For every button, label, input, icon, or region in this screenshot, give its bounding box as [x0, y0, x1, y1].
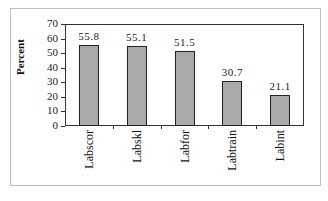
- y-tick-mark: [61, 53, 65, 54]
- y-tick-label: 50: [38, 47, 58, 58]
- x-tick-mark: [113, 126, 114, 129]
- y-tick-mark: [61, 82, 65, 83]
- y-tick-label: 20: [38, 91, 58, 102]
- value-label: 30.7: [212, 66, 252, 78]
- x-tick-label: Labtrain: [225, 130, 240, 200]
- y-axis-label: Percent: [14, 39, 26, 75]
- value-label: 51.5: [165, 36, 205, 48]
- y-tick-label: 40: [38, 62, 58, 73]
- y-tick-mark: [61, 24, 65, 25]
- x-tick-label: Labscor: [82, 130, 97, 200]
- bar-labfor: [175, 51, 195, 126]
- y-tick-mark: [61, 126, 65, 127]
- y-tick-label: 60: [38, 33, 58, 44]
- y-tick-mark: [61, 39, 65, 40]
- y-tick-label: 70: [38, 18, 58, 29]
- y-tick-mark: [61, 68, 65, 69]
- x-tick-mark: [208, 126, 209, 129]
- bar-labskl: [127, 46, 147, 126]
- bar-labint: [270, 95, 290, 126]
- value-label: 55.8: [69, 30, 109, 42]
- value-label: 55.1: [117, 31, 157, 43]
- value-label: 21.1: [260, 80, 300, 92]
- y-tick-label: 10: [38, 105, 58, 116]
- x-tick-mark: [161, 126, 162, 129]
- y-tick-label: 30: [38, 76, 58, 87]
- y-tick-label: 0: [38, 120, 58, 131]
- y-tick-mark: [61, 111, 65, 112]
- x-tick-label: Labskl: [130, 130, 145, 200]
- x-tick-label: Labfor: [178, 130, 193, 200]
- bar-labtrain: [222, 81, 242, 126]
- x-tick-mark: [256, 126, 257, 129]
- bar-labscor: [79, 45, 99, 126]
- y-tick-mark: [61, 97, 65, 98]
- x-tick-label: Labint: [273, 130, 288, 200]
